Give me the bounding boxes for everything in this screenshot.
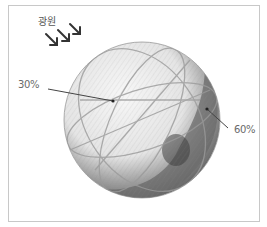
shaded-sphere-illustration [0, 0, 267, 227]
pointer-dot-30 [111, 99, 114, 102]
pointer-dot-60 [205, 107, 208, 110]
shadow-side-percent-label: 60% [234, 124, 255, 135]
lit-side-percent-label: 30% [18, 79, 39, 90]
sphere [52, 25, 232, 216]
light-source-label: 광원 [38, 13, 55, 28]
